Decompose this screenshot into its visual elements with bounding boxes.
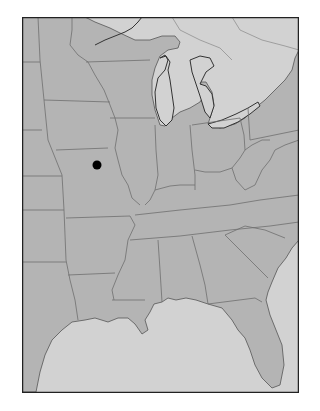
location-marker [93,161,102,170]
map-frame [22,17,299,393]
map-canvas [22,17,299,393]
